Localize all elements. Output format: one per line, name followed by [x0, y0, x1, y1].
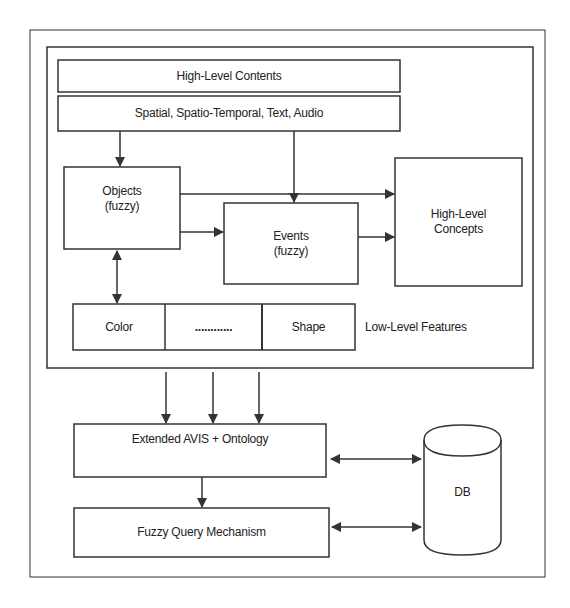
concepts-label-line2: Concepts	[434, 222, 483, 237]
events-label: Events (fuzzy)	[224, 203, 358, 284]
low-level-features-label: Low-Level Features	[365, 315, 515, 339]
events-label-line2: (fuzzy)	[274, 244, 309, 259]
fuzzy-query-label: Fuzzy Query Mechanism	[74, 508, 329, 557]
feature-shape: Shape	[262, 304, 355, 350]
high-level-contents-label: High-Level Contents	[58, 60, 400, 92]
feature-ellipsis: ............	[165, 304, 262, 350]
objects-label-line2: (fuzzy)	[105, 199, 140, 214]
feature-color: Color	[73, 304, 165, 350]
concepts-label-line1: High-Level	[431, 207, 486, 222]
objects-label: Objects (fuzzy)	[64, 167, 180, 231]
objects-label-line1: Objects	[102, 184, 141, 199]
content-types-label: Spatial, Spatio-Temporal, Text, Audio	[58, 96, 400, 131]
concepts-label: High-Level Concepts	[395, 158, 522, 286]
extended-avis-label: Extended AVIS + Ontology	[74, 424, 326, 454]
db-cylinder-rim	[424, 440, 501, 456]
db-label: DB	[424, 480, 501, 504]
events-label-line1: Events	[273, 229, 309, 244]
